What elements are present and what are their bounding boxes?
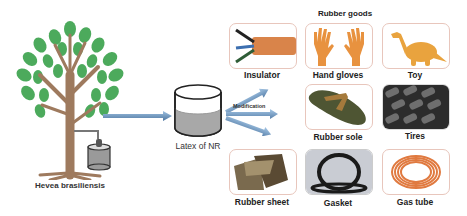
tile-rubber-sole (305, 84, 373, 130)
tile-tires (382, 84, 450, 130)
label-tires: Tires (382, 131, 448, 141)
label-gasket: Gasket (305, 198, 371, 208)
label-insulator: Insulator (229, 70, 295, 80)
tile-gas-tube (382, 149, 450, 195)
hand-gloves-icon (306, 24, 372, 68)
latex-container-icon (172, 82, 224, 138)
tile-rubber-sheet (229, 149, 297, 195)
rubber-goods-title: Rubber goods (305, 9, 385, 18)
arrow-up (224, 85, 271, 116)
modification-arrows (224, 82, 280, 136)
label-rubber-sole: Rubber sole (305, 132, 371, 142)
label-gas-tube: Gas tube (382, 197, 448, 207)
arrow-middle (226, 109, 278, 119)
rubber-sole-sandal-icon (306, 85, 372, 129)
gasket-ring-icon (306, 150, 372, 194)
latex-label: Latex of NR (170, 141, 226, 151)
toy-dinosaur-icon (383, 24, 449, 68)
modification-label: Modification (233, 103, 265, 109)
label-toy: Toy (382, 70, 448, 80)
tires-icon (383, 85, 449, 129)
rubber-tree-illustration (10, 15, 130, 180)
label-hand-gloves: Hand gloves (305, 70, 371, 80)
tile-toy (382, 23, 450, 69)
arrow-down (224, 113, 273, 136)
rubber-sheet-icon (230, 150, 296, 194)
gas-tube-coil-icon (383, 150, 449, 194)
tap-pipe (74, 131, 98, 139)
collection-cup (88, 139, 110, 170)
tile-gasket (305, 149, 373, 195)
arrow-to-latex (103, 110, 173, 122)
label-rubber-sheet: Rubber sheet (229, 197, 295, 207)
insulator-cable-icon (230, 24, 296, 68)
source-label: Hevea brasiliensis (30, 181, 110, 190)
tile-insulator (229, 23, 297, 69)
tile-hand-gloves (305, 23, 373, 69)
